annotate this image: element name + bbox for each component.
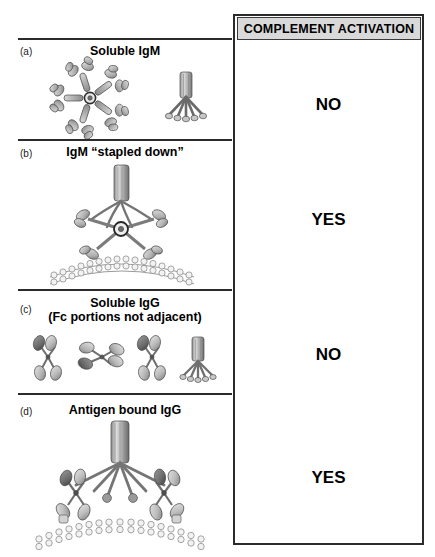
panel-c-subtitle: (Fc portions not adjacent) bbox=[18, 311, 232, 325]
panel-c-divider bbox=[18, 289, 232, 291]
igm-pentamer-icon bbox=[44, 64, 136, 132]
igm-side-view-icon bbox=[160, 70, 212, 126]
antigen-bound-igg-c1q-icon bbox=[36, 421, 204, 551]
answer-panel-c: NO bbox=[233, 345, 424, 365]
panel-b-divider bbox=[18, 139, 232, 141]
soluble-igg-group-icon bbox=[30, 329, 230, 387]
complement-activation-header: COMPLEMENT ACTIVATION bbox=[237, 17, 421, 40]
panel-b-title: IgM “stapled down” bbox=[18, 146, 232, 159]
panels-column: (a) Soluble IgM bbox=[0, 0, 233, 557]
answer-panel-d: YES bbox=[233, 468, 424, 488]
panel-a-divider bbox=[18, 38, 232, 40]
panel-d-title: Antigen bound IgG bbox=[18, 404, 232, 417]
panel-a-title: Soluble IgM bbox=[18, 45, 232, 58]
complement-activation-figure: (a) Soluble IgM bbox=[0, 0, 435, 557]
answer-panel-b: YES bbox=[233, 210, 424, 230]
panel-d: (d) Antigen bound IgG bbox=[0, 393, 233, 557]
complement-activation-header-label: COMPLEMENT ACTIVATION bbox=[244, 22, 415, 36]
panel-d-divider bbox=[18, 393, 232, 395]
complement-activation-column bbox=[233, 14, 424, 545]
panel-a: (a) Soluble IgM bbox=[0, 0, 233, 139]
panel-b: (b) IgM “stapled down” bbox=[0, 139, 233, 289]
igm-stapled-c1q-icon bbox=[52, 165, 192, 285]
panel-c: (c) Soluble IgG (Fc portions not adjacen… bbox=[0, 289, 233, 393]
panel-c-title: Soluble IgG bbox=[18, 297, 232, 311]
answer-panel-a: NO bbox=[233, 95, 424, 115]
